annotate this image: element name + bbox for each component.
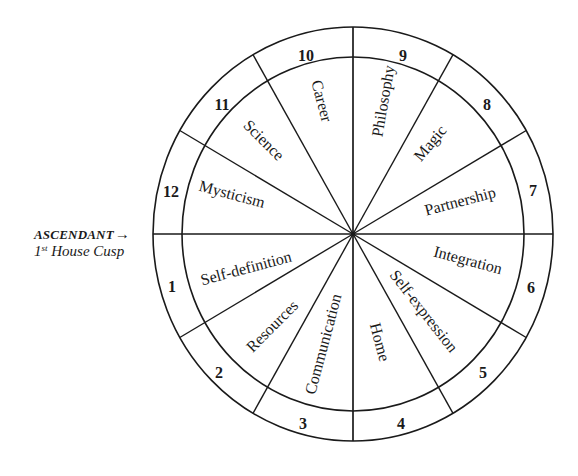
house-wheel-diagram: 123456789101112 Self-definitionResources… <box>0 0 578 476</box>
house-meaning-9: Philosophy <box>368 64 398 138</box>
house-meaning-1: Self-definition <box>199 248 294 289</box>
house-meaning-2: Resources <box>243 297 302 356</box>
cusp-number: 1 <box>34 243 42 259</box>
house-meaning-11: Science <box>240 116 287 163</box>
house-meaning-10: Career <box>308 78 336 124</box>
house-number-3: 3 <box>299 415 307 432</box>
house-meaning-6: Integration <box>432 243 504 279</box>
cusp-text: House Cusp <box>48 243 125 259</box>
house-number-7: 7 <box>529 182 537 199</box>
cusp-line-30 <box>353 131 526 235</box>
house-number-4: 4 <box>397 415 405 432</box>
house-meaning-7: Partnership <box>423 183 498 219</box>
house-number-6: 6 <box>527 279 535 296</box>
house-number-8: 8 <box>483 96 491 113</box>
house-number-1: 1 <box>168 278 176 295</box>
first-house-cusp-label: 1st House Cusp <box>34 243 124 260</box>
arrow-right-icon: → <box>115 226 130 242</box>
house-number-12: 12 <box>163 183 179 200</box>
house-meaning-3: Communication <box>301 292 344 396</box>
house-meaning-8: Magic <box>410 122 450 165</box>
center-point <box>351 232 355 236</box>
house-meaning-4: Home <box>367 321 394 363</box>
ascendant-title: ASCENDANT <box>34 227 114 242</box>
ascendant-label: ASCENDANT→ <box>34 226 130 243</box>
house-number-5: 5 <box>479 364 487 381</box>
house-meaning-12: Mysticism <box>197 177 267 212</box>
house-number-11: 11 <box>214 96 229 113</box>
house-number-2: 2 <box>215 364 223 381</box>
house-meaning-5: Self-expression <box>386 267 461 357</box>
house-number-10: 10 <box>298 47 314 64</box>
house-number-9: 9 <box>399 47 407 64</box>
